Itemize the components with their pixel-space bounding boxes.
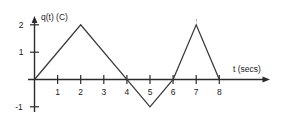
y-axis-arrow-icon bbox=[32, 16, 38, 23]
plot-area: 2 1 -1 1 2 3 4 5 6 7 8 q(t) (C) t (secs) bbox=[0, 0, 292, 126]
charge-vs-time-figure: 2 1 -1 1 2 3 4 5 6 7 8 q(t) (C) t (secs) bbox=[0, 0, 292, 126]
x-tick-label-4: 4 bbox=[125, 87, 130, 97]
x-tick-label-1: 1 bbox=[55, 87, 60, 97]
scan-speck bbox=[196, 19, 197, 22]
y-tick-label-minus-1: -1 bbox=[15, 102, 23, 112]
x-tick-label-5: 5 bbox=[148, 87, 153, 97]
y-tick-label-1: 1 bbox=[19, 47, 24, 57]
x-tick-label-7: 7 bbox=[194, 87, 199, 97]
y-tick-label-2: 2 bbox=[19, 20, 24, 30]
x-tick-label-8: 8 bbox=[217, 87, 222, 97]
x-axis-arrow-icon bbox=[263, 77, 271, 83]
x-tick-label-6: 6 bbox=[171, 87, 176, 97]
x-axis-title: t (secs) bbox=[233, 64, 261, 74]
y-axis-title: q(t) (C) bbox=[41, 12, 68, 22]
x-tick-label-2: 2 bbox=[78, 87, 83, 97]
x-tick-label-3: 3 bbox=[101, 87, 106, 97]
